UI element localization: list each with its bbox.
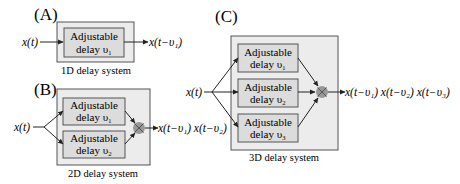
panel-c-block-3-line1: Adjustable [244, 116, 292, 128]
panel-a-block-1-line2: delay υ₁ [76, 43, 112, 55]
panel-b-block-2-line1: Adjustable [70, 132, 118, 144]
panel-a: (A) Adjustable delay υ₁ x(t) x(t−υ₁) 1D … [21, 5, 182, 76]
panel-c-block-2-line2: delay υ₂ [250, 93, 286, 105]
panel-c-block-1-line2: delay υ₁ [250, 58, 286, 70]
panel-c-output-signal: x(t−υ₁) x(t−υ₂) x(t−υ₃) [344, 86, 450, 99]
delay-systems-diagram: (A) Adjustable delay υ₁ x(t) x(t−υ₁) 1D … [0, 0, 460, 184]
panel-c: (C) Adjustable delay υ₁ Adjustable delay… [185, 7, 450, 163]
panel-a-input-signal: x(t) [21, 36, 38, 49]
panel-c-block-3-line2: delay υ₃ [250, 128, 286, 140]
panel-b-output-signal: x(t−υ₁) x(t−υ₂) [157, 122, 227, 135]
multiplier-icon [133, 122, 145, 134]
panel-b-caption: 2D delay system [68, 168, 138, 179]
panel-b-block-1-line1: Adjustable [70, 99, 118, 111]
panel-c-block-2-line1: Adjustable [244, 81, 292, 93]
panel-b-input-signal: x(t) [13, 121, 30, 134]
panel-a-block-1-line1: Adjustable [70, 30, 118, 42]
multiplier-icon [316, 86, 328, 98]
panel-c-block-1-line1: Adjustable [244, 46, 292, 58]
panel-a-label: (A) [34, 5, 58, 24]
panel-c-label: (C) [215, 7, 238, 26]
panel-b-label: (B) [34, 80, 57, 99]
panel-b-block-2-line2: delay υ₂ [76, 144, 112, 156]
panel-a-output-signal: x(t−υ₁) [148, 36, 182, 49]
panel-c-caption: 3D delay system [249, 152, 319, 163]
panel-a-caption: 1D delay system [61, 65, 131, 76]
panel-c-input-signal: x(t) [185, 86, 202, 99]
panel-b-block-1-line2: delay υ₁ [76, 111, 112, 123]
